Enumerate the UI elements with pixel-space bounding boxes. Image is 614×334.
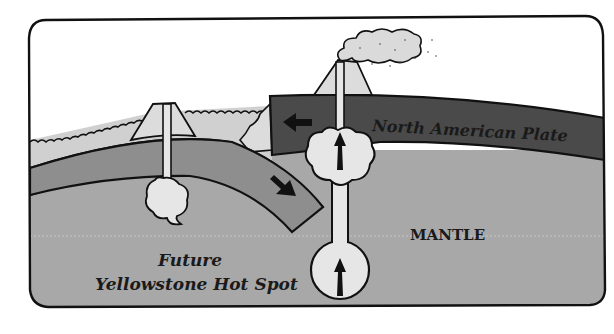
hotspot-label-line1: Future	[157, 250, 222, 270]
mantle-label: MANTLE	[410, 226, 485, 244]
hotspot-label-line2: Yellowstone Hot Spot	[95, 274, 298, 294]
yellowstone-hotspot-diagram: North American Plate MANTLE Future Yello…	[0, 0, 614, 334]
plume-join	[333, 240, 347, 248]
upper-conduit	[336, 62, 344, 132]
